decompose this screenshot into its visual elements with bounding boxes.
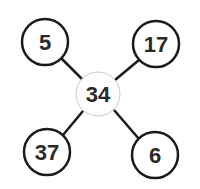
center-node-label: 34 (86, 82, 111, 107)
node-top-left-label: 5 (39, 30, 51, 55)
number-diagram: 34 5 17 37 6 (0, 0, 200, 189)
connector-top-left (61, 58, 82, 79)
connector-bottom-left (63, 111, 83, 135)
node-bottom-right-label: 6 (149, 143, 161, 168)
center-node: 34 (76, 72, 120, 116)
node-bottom-right: 6 (132, 132, 178, 178)
connector-bottom-right (114, 110, 139, 139)
node-bottom-left: 37 (24, 129, 70, 175)
node-top-left: 5 (22, 19, 68, 65)
node-top-right: 17 (133, 21, 179, 67)
node-top-right-label: 17 (144, 32, 168, 57)
connector-top-right (115, 60, 139, 80)
node-bottom-left-label: 37 (35, 140, 59, 165)
